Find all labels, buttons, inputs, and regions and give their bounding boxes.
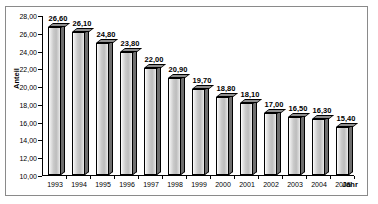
- bar-column[interactable]: [240, 103, 253, 175]
- y-axis-tick-mark: [38, 105, 42, 106]
- bar-value-label: 16,30: [313, 107, 332, 115]
- x-axis-tick-mark: [138, 176, 139, 179]
- y-axis-tick-mark: [38, 140, 42, 141]
- bar-column[interactable]: [120, 52, 133, 175]
- y-axis-tick-mark: [38, 16, 42, 17]
- bar-column[interactable]: [96, 43, 109, 175]
- x-axis-tick-mark: [306, 176, 307, 179]
- x-axis-tick-label: 2002: [263, 181, 279, 188]
- bar-value-label: 17,00: [265, 101, 284, 109]
- bar-front-face: [72, 32, 85, 175]
- bar-side-face: [325, 116, 329, 175]
- x-axis-tick-mark: [114, 176, 115, 179]
- y-axis-tick-label: 18,00: [19, 101, 37, 108]
- bar-side-face: [277, 110, 281, 175]
- y-axis-tick-label: 20,00: [19, 84, 37, 91]
- bar-front-face: [144, 68, 157, 175]
- bar-side-face: [205, 86, 209, 175]
- y-axis-line: [42, 16, 43, 176]
- bar-side-face: [85, 29, 89, 175]
- bar-front-face: [336, 127, 349, 175]
- y-axis-tick-label: 14,00: [19, 137, 37, 144]
- x-axis-tick-label: 1994: [71, 181, 87, 188]
- x-axis-tick-label: 1993: [47, 181, 63, 188]
- bar-value-label: 18,80: [217, 85, 236, 93]
- bar-column[interactable]: [336, 127, 349, 175]
- bar-value-label: 18,10: [241, 91, 260, 99]
- bar-front-face: [120, 52, 133, 175]
- x-axis-tick-label: 1998: [167, 181, 183, 188]
- bar-value-label: 24,80: [97, 31, 116, 39]
- y-axis-tick-mark: [38, 34, 42, 35]
- bar-side-face: [133, 49, 137, 175]
- x-axis-tick-label: 2005: [335, 181, 351, 188]
- x-axis-tick-mark: [330, 176, 331, 179]
- x-axis-tick-mark: [66, 176, 67, 179]
- chart-frame: Anteil Jahr 28,0026,0024,0022,0020,0018,…: [5, 6, 368, 196]
- bar-side-face: [157, 65, 161, 175]
- bar-value-label: 15,40: [337, 115, 356, 123]
- bar-front-face: [288, 117, 301, 175]
- bar-column[interactable]: [288, 117, 301, 175]
- x-axis-tick-mark: [234, 176, 235, 179]
- bar-value-label: 23,80: [121, 40, 140, 48]
- y-axis-tick-mark: [38, 87, 42, 88]
- x-axis-tick-mark: [210, 176, 211, 179]
- x-axis-line: [42, 175, 354, 176]
- bar-side-face: [349, 124, 353, 175]
- x-axis-tick-label: 1997: [143, 181, 159, 188]
- bar-front-face: [240, 103, 253, 175]
- bar-value-label: 16,50: [289, 105, 308, 113]
- bar-front-face: [264, 113, 277, 175]
- x-axis-tick-mark: [258, 176, 259, 179]
- x-axis-tick-label: 1996: [119, 181, 135, 188]
- bar-column[interactable]: [72, 32, 85, 175]
- bar-side-face: [61, 24, 65, 175]
- y-axis-tick-mark: [38, 158, 42, 159]
- x-axis-tick-label: 1995: [95, 181, 111, 188]
- bar-side-face: [253, 100, 257, 175]
- y-axis-tick-label: 16,00: [19, 119, 37, 126]
- bar-front-face: [96, 43, 109, 175]
- y-axis-tick-mark: [38, 69, 42, 70]
- bar-column[interactable]: [312, 119, 325, 175]
- bar-column[interactable]: [264, 113, 277, 175]
- y-axis-tick-label: 10,00: [19, 173, 37, 180]
- bar-front-face: [216, 97, 229, 175]
- bar-value-label: 20,90: [169, 66, 188, 74]
- y-axis-tick-label: 26,00: [19, 30, 37, 37]
- y-axis-tick-mark: [38, 176, 42, 177]
- bar-front-face: [192, 89, 205, 175]
- x-axis-tick-label: 1999: [191, 181, 207, 188]
- x-axis-tick-mark: [354, 176, 355, 179]
- bar-value-label: 26,60: [49, 15, 68, 23]
- bar-front-face: [48, 27, 61, 175]
- y-axis-tick-mark: [38, 123, 42, 124]
- x-axis-tick-mark: [162, 176, 163, 179]
- bar-column[interactable]: [48, 27, 61, 175]
- bar-value-label: 26,10: [73, 20, 92, 28]
- y-axis-tick-label: 28,00: [19, 13, 37, 20]
- bar-value-label: 19,70: [193, 77, 212, 85]
- bar-column[interactable]: [192, 89, 205, 175]
- bar-column[interactable]: [144, 68, 157, 175]
- y-axis-tick-label: 12,00: [19, 155, 37, 162]
- y-axis-tick-label: 24,00: [19, 48, 37, 55]
- y-axis-tick-mark: [38, 52, 42, 53]
- bar-column[interactable]: [216, 97, 229, 175]
- bar-front-face: [312, 119, 325, 175]
- x-axis-tick-label: 2000: [215, 181, 231, 188]
- bar-front-face: [168, 78, 181, 175]
- bar-side-face: [301, 114, 305, 175]
- bar-side-face: [109, 40, 113, 175]
- x-axis-tick-label: 2001: [239, 181, 255, 188]
- x-axis-tick-mark: [282, 176, 283, 179]
- bar-column[interactable]: [168, 78, 181, 175]
- x-axis-tick-label: 2003: [287, 181, 303, 188]
- plot-area: 28,0026,0024,0022,0020,0018,0016,0014,00…: [42, 16, 354, 176]
- y-axis-tick-label: 22,00: [19, 66, 37, 73]
- bar-side-face: [181, 75, 185, 175]
- x-axis-tick-mark: [90, 176, 91, 179]
- x-axis-tick-label: 2004: [311, 181, 327, 188]
- bar-value-label: 22,00: [145, 56, 164, 64]
